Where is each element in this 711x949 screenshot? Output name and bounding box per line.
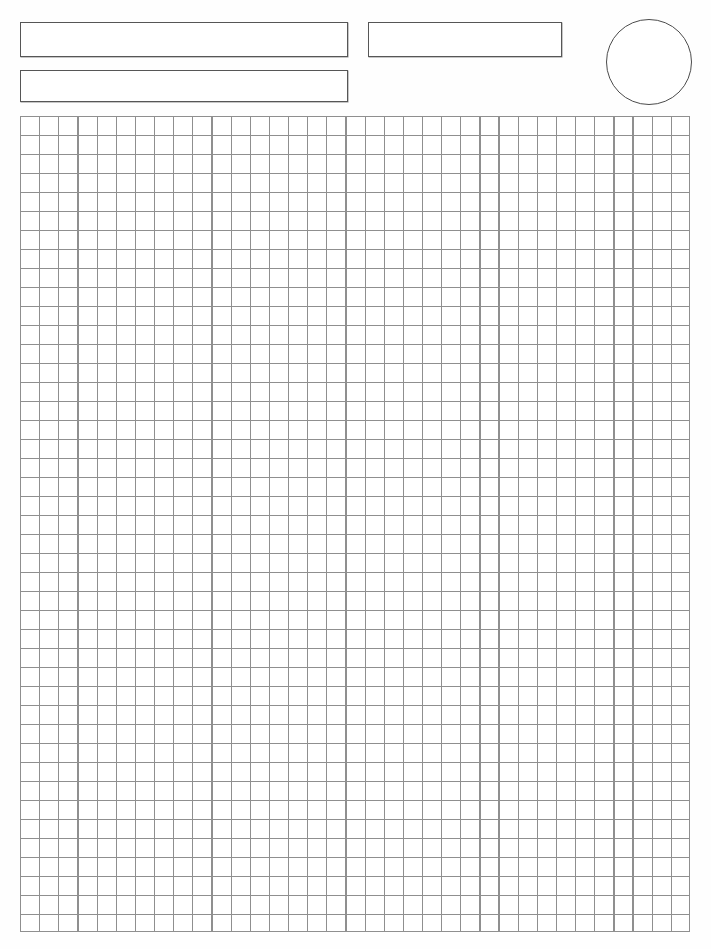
date-field[interactable] (368, 22, 562, 57)
name-field[interactable] (20, 22, 348, 57)
date-field-value (369, 23, 561, 31)
graph-paper-grid[interactable] (20, 116, 690, 932)
name-field-value (21, 23, 347, 31)
subject-field[interactable] (20, 70, 348, 102)
subject-field-value (21, 71, 347, 79)
worksheet-page (0, 0, 711, 949)
score-circle[interactable] (606, 19, 692, 105)
